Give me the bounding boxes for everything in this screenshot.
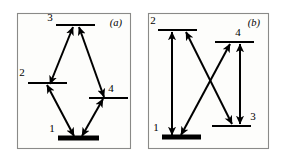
energy-level-label-4: 4 [108, 82, 114, 94]
panel-tag-label: (b) [248, 17, 261, 29]
panel-n-cross-scheme: (b)1234 [149, 14, 269, 149]
energy-level-diagram: (a)1234(b)1234 [0, 0, 285, 163]
panel-diamond-scheme: (a)1234 [18, 11, 131, 149]
energy-level-label-1: 1 [49, 122, 55, 134]
panel-border-b [149, 14, 269, 149]
energy-level-label-2: 2 [19, 66, 25, 78]
panel-tag-label: (a) [110, 17, 123, 29]
energy-level-label-2: 2 [150, 14, 156, 26]
energy-level-label-3: 3 [47, 11, 53, 23]
panel-border-a [18, 14, 131, 149]
figure-root: (a)1234(b)1234 [0, 0, 285, 163]
energy-level-label-1: 1 [153, 121, 159, 133]
energy-level-label-3: 3 [250, 110, 256, 122]
energy-level-label-4: 4 [235, 26, 241, 38]
